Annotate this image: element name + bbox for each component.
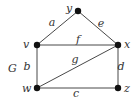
node-label-z: z (123, 82, 130, 95)
edge-label-b: b (23, 60, 30, 73)
edge-label-a: a (49, 16, 56, 29)
node-label-x: x (124, 38, 131, 51)
edge-label-e: e (98, 17, 105, 30)
graph-diagram: aefbgdcyvxwzG (0, 0, 137, 100)
node-y (75, 8, 81, 14)
graph-name-label: G (8, 62, 17, 75)
edge-label-g: g (71, 53, 78, 66)
node-w (34, 85, 40, 91)
node-v (34, 42, 40, 48)
edge-label-d: d (117, 60, 124, 73)
edge-g (37, 45, 118, 88)
node-label-v: v (23, 38, 30, 51)
edge-a (37, 11, 78, 45)
node-label-w: w (22, 82, 32, 95)
edge-label-f: f (75, 33, 82, 46)
node-z (115, 85, 121, 91)
node-label-y: y (65, 2, 73, 15)
edge-label-c: c (73, 87, 79, 100)
node-x (115, 42, 121, 48)
